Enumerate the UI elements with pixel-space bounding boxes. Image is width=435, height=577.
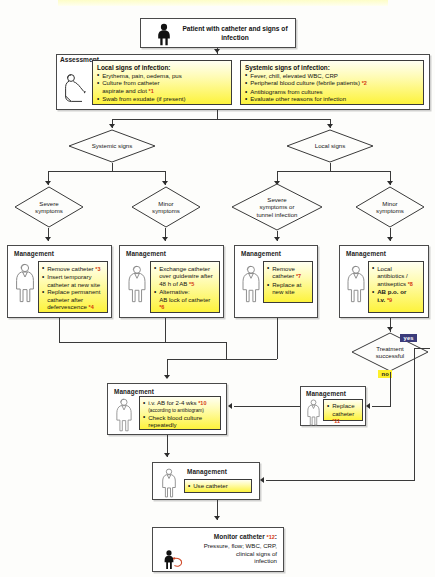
management-list: Local antibiotics / antiseptics *8 AB p.… xyxy=(372,265,421,305)
arrowhead-assessment xyxy=(214,49,220,53)
list-item: Swab from exudate (if present) xyxy=(97,95,228,103)
decision-label: Minor symptoms xyxy=(152,200,180,215)
decision-minor-symptoms-systemic: Minor symptoms xyxy=(131,186,201,228)
list-item: Alternative: AB lock of catheter *6 xyxy=(154,288,217,312)
doctor-icon xyxy=(240,265,262,303)
start-node-label: Patient with catheter and signs of infec… xyxy=(179,24,291,42)
footnote-marker: *9 xyxy=(387,297,392,303)
footnote-marker: *6 xyxy=(159,304,164,310)
management-title: Management xyxy=(126,250,166,257)
management-content-panel: Use catheter xyxy=(184,479,252,493)
decision-severe-or-tunnel: Severe symptoms or tunnel infection xyxy=(231,183,323,231)
arrowhead-minor-local xyxy=(387,181,393,185)
doctor-icon xyxy=(345,265,367,303)
list-item: Replace permanent catheter after deferve… xyxy=(42,288,105,312)
monitor-title: Monitor catheter *12: xyxy=(214,533,277,540)
doctor-icon xyxy=(14,263,36,303)
list-item: Erythema, pain, oedema, pus xyxy=(97,72,228,80)
systemic-signs-list: Fever, chill, elevated WBC, CRP Peripher… xyxy=(245,72,420,103)
connector-yes-down xyxy=(414,348,415,480)
connector-mgmt1-down xyxy=(59,318,60,342)
footnote-marker: *8 xyxy=(408,281,413,287)
list-item: Peripheral blood culture (febrile patien… xyxy=(245,79,420,88)
decision-minor-symptoms-local: Minor symptoms xyxy=(355,186,425,228)
doctor-icon xyxy=(126,265,148,303)
list-item: Culture from catheter aspirate and clot … xyxy=(97,79,228,95)
list-item: Evaluate other reasons for infection xyxy=(245,95,420,103)
management-list: Replace catheter *11 xyxy=(327,402,360,426)
local-signs-heading: Local signs of infection: xyxy=(97,64,228,71)
footnote-marker: *10 xyxy=(198,400,206,406)
management-use-catheter: Management Use catheter xyxy=(152,462,260,500)
management-severe-systemic: Management Remove catheter *3 Insert tem… xyxy=(7,245,112,318)
connector-no-down xyxy=(390,372,391,406)
management-content-panel: Remove catheter *7 Replace at new site xyxy=(263,261,313,303)
arrowhead-mgmt-severe xyxy=(45,237,51,241)
footnote-marker: *2 xyxy=(362,80,367,86)
connector-mgmt3-left xyxy=(167,359,277,360)
list-item: Exchange catheter over guidewire after 4… xyxy=(154,265,217,289)
arrowhead-monitor xyxy=(214,516,220,520)
arrowhead-ivab-right xyxy=(228,403,232,409)
arrowhead-ivab-top xyxy=(164,375,170,379)
list-item: Fever, chill, elevated WBC, CRP xyxy=(245,72,420,80)
list-item: Check blood culture repeatedly xyxy=(143,414,218,429)
arrowhead-local-dec xyxy=(327,124,333,128)
management-list: i.v. AB for 2-4 wks *10 (according to an… xyxy=(143,399,218,429)
footnote-marker: *7 xyxy=(296,273,301,279)
connector-lower-bus-left xyxy=(59,342,226,343)
list-item: Remove catheter *7 xyxy=(267,265,310,281)
footnote-marker: *1 xyxy=(149,88,154,94)
management-list: Exchange catheter over guidewire after 4… xyxy=(154,265,217,313)
doctor-icon xyxy=(305,399,322,426)
arrowhead-severe-sym xyxy=(45,181,51,185)
decision-label: Severe symptoms xyxy=(35,200,63,215)
decision-systemic-signs: Systemic signs xyxy=(68,129,156,163)
arrowhead-systemic-dec xyxy=(109,124,115,128)
management-title: Management xyxy=(187,468,227,475)
decision-treatment-successful: Treatment successful xyxy=(351,332,429,372)
list-item: Replace catheter *11 xyxy=(327,402,360,426)
doctor-icon xyxy=(114,398,134,432)
list-item: Insert temporary catheter at new site xyxy=(42,273,105,288)
list-item: Remove catheter *3 xyxy=(42,265,105,274)
connector-no-left xyxy=(372,406,391,407)
local-signs-list: Erythema, pain, oedema, pus Culture from… xyxy=(97,72,228,103)
arrowhead-use-catheter xyxy=(164,453,170,457)
local-signs-panel: Local signs of infection: Erythema, pain… xyxy=(92,60,232,105)
decision-label: Minor symptoms xyxy=(376,200,404,215)
arrowhead-treat xyxy=(387,327,393,331)
arrowhead-mgmt-tunnel xyxy=(274,237,280,241)
list-item: Use catheter xyxy=(188,482,249,490)
management-title: Management xyxy=(114,388,154,395)
arrowhead-minor-sym xyxy=(162,181,168,185)
connector-mgmt3-down xyxy=(277,318,278,359)
decision-severe-symptoms: Severe symptoms xyxy=(14,186,84,228)
arrowhead-mgmt-minor xyxy=(162,237,168,241)
patient-icon xyxy=(153,23,175,46)
footnote-marker: *12 xyxy=(267,534,275,540)
footnote-marker: *3 xyxy=(95,266,100,272)
doctor-icon xyxy=(159,468,179,498)
management-minor-systemic: Management Exchange catheter over guidew… xyxy=(119,245,224,318)
list-item: AB p.o. or i.v. *9 xyxy=(372,288,421,304)
connector-bus-riser xyxy=(226,342,227,359)
management-content-panel: Replace catheter *11 xyxy=(323,399,363,421)
systemic-signs-panel: Systemic signs of infection: Fever, chil… xyxy=(240,60,424,105)
patient-catheter-icon xyxy=(162,550,190,570)
management-replace-catheter: Management Replace catheter *11 xyxy=(300,386,366,426)
list-item: Antibiograms from cultures xyxy=(245,88,420,96)
footnote-marker: *4 xyxy=(89,304,94,310)
footnote-marker: *11 xyxy=(332,418,340,424)
management-list: Remove catheter *7 Replace at new site xyxy=(267,265,310,296)
management-content-panel: Exchange catheter over guidewire after 4… xyxy=(150,261,220,313)
management-title: Management xyxy=(346,250,386,257)
connector-yes-left xyxy=(266,480,415,481)
top-title-banner xyxy=(58,0,388,6)
connector-replace-to-ivab xyxy=(234,406,300,407)
connector-split-bus xyxy=(112,119,330,120)
connector-mgmt2-down xyxy=(165,318,166,342)
list-item: i.v. AB for 2-4 wks *10 xyxy=(143,399,218,408)
connector-systemic-bus xyxy=(48,171,165,172)
arrowhead-replace-catheter xyxy=(366,403,370,409)
